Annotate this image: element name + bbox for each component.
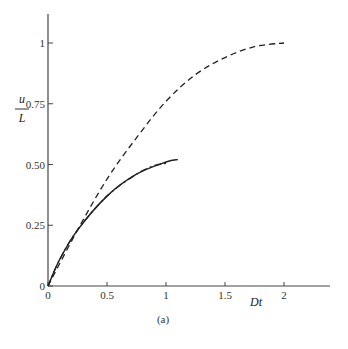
x-tick-label: 2	[281, 289, 287, 301]
curves	[48, 43, 284, 286]
y-tick-label: 1	[40, 37, 46, 49]
axes: 00.511.5200.250.500.751	[26, 14, 330, 301]
y-tick-label: 0	[40, 280, 46, 292]
y-tick-label: 0.75	[26, 98, 46, 110]
y-tick-label: 0.25	[26, 219, 46, 231]
x-tick-label: 0.5	[100, 289, 114, 301]
figure-caption: (a)	[157, 313, 170, 326]
y-axis-label-denominator: L	[18, 111, 26, 125]
series-dash-dot-line	[48, 163, 166, 286]
x-axis-label: Dt	[249, 295, 263, 309]
series-solid-line	[48, 160, 178, 286]
series-dashed-line	[48, 43, 284, 286]
y-axis-label-numerator: u	[19, 92, 25, 106]
x-tick-label: 1.5	[218, 289, 232, 301]
x-tick-label: 1	[163, 289, 169, 301]
chart-figure: 00.511.5200.250.500.751 Dt u L (a)	[0, 0, 348, 349]
y-tick-label: 0.50	[26, 159, 46, 171]
x-tick-label: 0	[45, 289, 51, 301]
